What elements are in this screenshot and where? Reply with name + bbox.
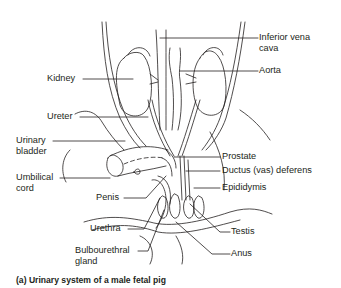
label-kidney: Kidney bbox=[47, 73, 75, 84]
label-prostate: Prostate bbox=[222, 151, 256, 162]
label-urinary-bladder-line2: bladder bbox=[16, 146, 47, 157]
label-inferior-vena-cava-line2: cava bbox=[259, 43, 278, 54]
label-umbilical-cord-line1: Umbilical bbox=[16, 172, 53, 183]
label-urethra: Urethra bbox=[90, 223, 121, 234]
label-anus: Anus bbox=[231, 248, 252, 259]
label-ductus-deferens: Ductus (vas) deferens bbox=[222, 165, 312, 176]
label-umbilical-cord-line2: cord bbox=[16, 183, 34, 194]
label-inferior-vena-cava-line1: Inferior vena bbox=[259, 32, 310, 43]
label-testis: Testis bbox=[231, 226, 254, 237]
leader-penis bbox=[124, 176, 166, 198]
label-bulbourethral-gland-line2: gland bbox=[75, 256, 97, 267]
label-aorta: Aorta bbox=[259, 65, 281, 76]
label-epididymis: Epididymis bbox=[222, 182, 266, 193]
label-ureter: Ureter bbox=[47, 111, 73, 122]
fetal-pig-urinary-illustration bbox=[0, 0, 341, 288]
label-urinary-bladder-line1: Urinary bbox=[16, 135, 46, 146]
figure-caption: (a) Urinary system of a male fetal pig bbox=[16, 275, 166, 285]
leader-urethra bbox=[128, 198, 160, 229]
label-penis: Penis bbox=[96, 192, 119, 203]
label-bulbourethral-gland-line1: Bulbourethral bbox=[75, 245, 130, 256]
leader-anus bbox=[176, 222, 230, 254]
